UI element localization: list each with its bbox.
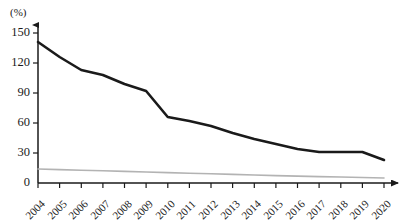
series-line-gray: [38, 169, 384, 178]
y-tick-label-90: 90: [2, 85, 30, 100]
y-axis-unit-label: (%): [10, 6, 27, 18]
series-line-black: [38, 42, 384, 160]
chart-container: (%) 150 120 90 60 30 0 20042005200620072…: [0, 0, 409, 223]
chart-plot-area: [0, 0, 409, 223]
y-tick-label-150: 150: [2, 25, 30, 40]
y-tick-label-30: 30: [2, 145, 30, 160]
y-tick-label-60: 60: [2, 115, 30, 130]
axis-lines: [38, 25, 398, 183]
y-tick-label-0: 0: [2, 175, 30, 190]
y-tick-label-120: 120: [2, 55, 30, 70]
